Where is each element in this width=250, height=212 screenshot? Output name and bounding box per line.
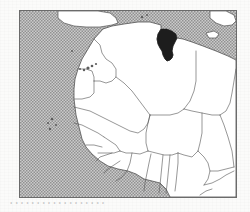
island-marker	[49, 128, 51, 130]
island-marker	[51, 118, 54, 121]
island-marker	[79, 68, 81, 70]
map-frame	[19, 10, 237, 198]
island-marker	[83, 69, 85, 71]
scanned-page: • • • • • • • • • • • • • • • • • •	[0, 0, 250, 212]
island-marker	[71, 50, 73, 52]
island-marker	[47, 122, 49, 124]
island-marker	[86, 66, 89, 69]
island-marker	[141, 16, 143, 18]
locator-map-graphic	[20, 11, 236, 197]
bleed-through-text: • • • • • • • • • • • • • • • • • •	[10, 199, 240, 211]
island-marker	[91, 65, 94, 68]
island-marker	[95, 63, 97, 65]
island-marker	[146, 14, 148, 16]
island-marker	[55, 124, 57, 126]
